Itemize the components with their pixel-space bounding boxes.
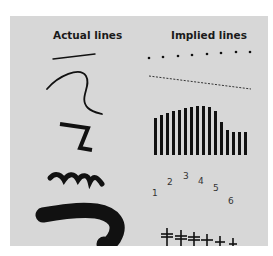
squiggle-line <box>50 174 102 184</box>
straight-line <box>53 54 95 59</box>
number-5: 5 <box>213 183 219 193</box>
number-3: 3 <box>183 171 189 181</box>
number-4: 4 <box>198 176 204 186</box>
curvy-line <box>47 72 102 114</box>
zigzag-line <box>60 124 92 150</box>
diagram-panel: Actual lines Implied lines <box>10 16 268 246</box>
dashed-line <box>149 76 251 89</box>
cross-height-implied-line <box>161 228 237 246</box>
dotted-line <box>148 51 252 60</box>
brush-stroke-line <box>43 210 117 244</box>
line-illustrations <box>10 16 268 246</box>
number-2: 2 <box>167 177 173 187</box>
bar-edge-implied-line <box>154 106 247 155</box>
number-6: 6 <box>228 196 234 206</box>
number-1: 1 <box>152 188 158 198</box>
actual-lines-group <box>43 54 117 245</box>
